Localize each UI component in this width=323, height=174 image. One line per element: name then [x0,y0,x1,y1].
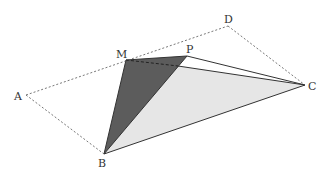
label-a: A [13,90,23,103]
label-p: P [186,43,194,56]
label-d: D [224,13,233,26]
label-c: C [308,80,316,93]
label-m: M [116,48,127,61]
geometry-diagram: A B C D M P [0,0,323,174]
edge-ab [26,95,104,154]
label-b: B [98,157,106,170]
